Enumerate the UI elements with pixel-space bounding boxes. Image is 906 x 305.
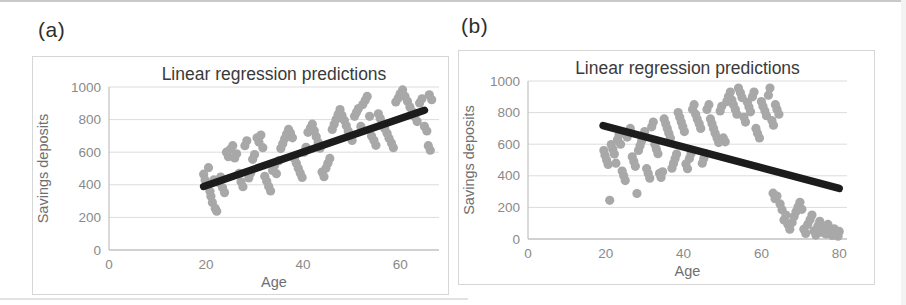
x-axis-title: Age — [261, 274, 287, 290]
scatter-point — [631, 162, 640, 171]
scan-edge-bottom — [0, 298, 468, 300]
chart-a-scatterplot: 020040060080010000204060Linear regressio… — [32, 56, 449, 295]
scatter-point — [426, 146, 435, 155]
scatter-point — [797, 205, 806, 214]
y-tick-label: 400 — [497, 168, 520, 183]
scatter-point — [422, 126, 431, 135]
scatter-point — [258, 143, 267, 152]
scan-edge-right — [901, 0, 906, 305]
scatter-point — [238, 182, 247, 191]
y-tick-label: 800 — [497, 105, 520, 120]
scatter-point — [749, 87, 758, 96]
scatter-point — [242, 136, 251, 145]
scatter-point — [721, 137, 730, 146]
x-tick-label: 20 — [598, 246, 613, 261]
scatter-point — [658, 167, 667, 176]
scatter-point — [774, 110, 783, 119]
y-tick-label: 200 — [78, 210, 101, 225]
y-tick-label: 0 — [93, 243, 101, 258]
panel-b-label: (b) — [461, 14, 488, 38]
scatter-point — [649, 117, 658, 126]
scatter-point — [801, 229, 810, 238]
scatter-point — [389, 143, 398, 152]
scatter-point — [807, 210, 816, 219]
y-tick-label: 0 — [512, 232, 520, 247]
scatter-point — [653, 149, 662, 158]
y-tick-label: 600 — [78, 145, 101, 160]
y-tick-label: 400 — [78, 177, 101, 192]
scatter-point — [632, 189, 641, 198]
scatter-point — [204, 163, 213, 172]
x-tick-label: 80 — [832, 246, 847, 261]
scatter-point — [621, 176, 630, 185]
scatter-point — [696, 124, 705, 133]
scatter-point — [604, 160, 613, 169]
scatter-point — [250, 150, 259, 159]
scatter-point — [325, 154, 334, 163]
scatter-point — [755, 133, 764, 142]
scatter-point — [605, 196, 614, 205]
scatter-point — [256, 130, 265, 139]
scatter-point — [220, 188, 229, 197]
scatter-point — [680, 127, 689, 136]
scatter-point — [690, 100, 699, 109]
x-tick-label: 0 — [105, 257, 113, 272]
chart-title: Linear regression predictions — [575, 58, 800, 78]
x-tick-label: 20 — [199, 257, 214, 272]
scatter-point — [835, 227, 844, 236]
scatter-point — [704, 100, 713, 109]
x-tick-label: 60 — [393, 257, 408, 272]
scatter-point — [769, 121, 778, 130]
scatter-point — [266, 186, 275, 195]
chart-b-scatterplot: 02004006008001000020406080Linear regress… — [458, 50, 875, 285]
scatter-point — [272, 169, 281, 178]
scatter-point — [672, 149, 681, 158]
scatter-point — [610, 149, 619, 158]
scatter-point — [228, 141, 237, 150]
scan-edge-top — [0, 0, 906, 2]
scatter-point — [772, 191, 781, 200]
scatter-point — [611, 159, 620, 168]
x-axis-title: Age — [675, 263, 701, 279]
y-axis-title: Savings deposits — [35, 114, 51, 224]
x-tick-label: 40 — [676, 246, 691, 261]
chart-title: Linear regression predictions — [162, 64, 387, 84]
scatter-point — [683, 164, 692, 173]
x-tick-label: 40 — [296, 257, 311, 272]
scatter-point — [765, 84, 774, 93]
scatter-point — [365, 112, 374, 121]
y-tick-label: 800 — [78, 112, 101, 127]
y-tick-label: 1000 — [490, 74, 520, 89]
scatter-point — [726, 87, 735, 96]
y-tick-label: 200 — [497, 200, 520, 215]
scatter-point — [427, 95, 436, 104]
scatter-point — [319, 172, 328, 181]
panel-a-label: (a) — [38, 18, 65, 42]
y-tick-label: 600 — [497, 137, 520, 152]
scatter-point — [212, 207, 221, 216]
scatter-point — [781, 210, 790, 219]
y-tick-label: 1000 — [71, 80, 101, 95]
scatter-point — [371, 141, 380, 150]
scatter-point — [288, 133, 297, 142]
x-tick-label: 0 — [524, 246, 532, 261]
scatter-point — [232, 149, 241, 158]
x-tick-label: 60 — [754, 246, 769, 261]
scatter-point — [363, 92, 372, 101]
scatter-point — [741, 117, 750, 126]
scatter-point — [616, 140, 625, 149]
scatter-point — [746, 107, 755, 116]
scatter-point — [298, 173, 307, 182]
scatter-point — [645, 174, 654, 183]
y-axis-title: Savings deposits — [461, 105, 477, 215]
